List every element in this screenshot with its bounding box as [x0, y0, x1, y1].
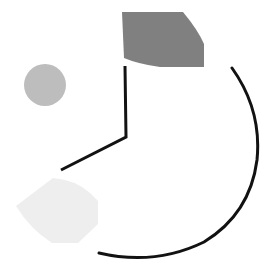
mid-gray-disc[interactable]	[24, 64, 66, 106]
composition-svg: Exploded donut segment composition	[0, 0, 277, 267]
figure-canvas: Exploded donut segment composition	[0, 0, 277, 267]
